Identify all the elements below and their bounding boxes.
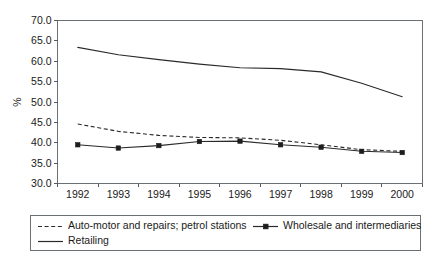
x-tick-label: 2000	[391, 188, 415, 200]
x-tick-label: 1993	[107, 188, 131, 200]
y-tick-label: 45.0	[31, 116, 52, 128]
y-tick-label: 50.0	[31, 96, 52, 108]
chart-legend: Auto-motor and repairs; petrol stationsW…	[31, 216, 422, 251]
y-axis: 30.035.040.045.050.055.060.065.070.0	[31, 14, 57, 189]
data-point-marker	[157, 143, 161, 147]
y-tick-label: 60.0	[31, 55, 52, 67]
x-tick-label: 1996	[228, 188, 252, 200]
y-tick-label: 35.0	[31, 157, 52, 169]
line-chart-figure: 30.035.040.045.050.055.060.065.070.0 % 1…	[0, 0, 436, 264]
x-tick-label: 1992	[66, 188, 90, 200]
legend-item-label: Wholesale and intermediaries	[283, 219, 421, 231]
data-point-marker	[278, 143, 282, 147]
series-line-retailing	[78, 47, 402, 96]
data-point-marker	[238, 139, 242, 143]
y-axis-title: %	[11, 97, 23, 106]
legend-item-label: Retailing	[68, 234, 109, 246]
plot-area-frame	[58, 21, 423, 184]
legend-swatch-square-marker-icon	[263, 224, 268, 229]
y-tick-label: 70.0	[31, 14, 52, 26]
data-point-marker	[359, 149, 363, 153]
x-tick-label: 1997	[269, 188, 293, 200]
chart-canvas: 30.035.040.045.050.055.060.065.070.0 % 1…	[0, 0, 436, 264]
x-tick-label: 1998	[309, 188, 333, 200]
x-tick-label: 1995	[188, 188, 212, 200]
data-point-marker	[319, 145, 323, 149]
legend-item-label: Auto-motor and repairs; petrol stations	[68, 219, 247, 231]
legend-item: Auto-motor and repairs; petrol stations	[38, 219, 247, 231]
data-point-marker	[76, 143, 80, 147]
y-tick-label: 30.0	[31, 177, 52, 189]
data-series-group	[76, 47, 405, 154]
data-point-marker	[400, 150, 404, 154]
x-axis: 199219931994199519961997199819992000	[58, 184, 423, 200]
data-point-marker	[197, 139, 201, 143]
data-point-marker	[116, 146, 120, 150]
x-tick-label: 1994	[147, 188, 171, 200]
x-tick-label: 1999	[350, 188, 374, 200]
y-tick-label: 65.0	[31, 34, 52, 46]
y-tick-label: 40.0	[31, 136, 52, 148]
y-tick-label: 55.0	[31, 75, 52, 87]
